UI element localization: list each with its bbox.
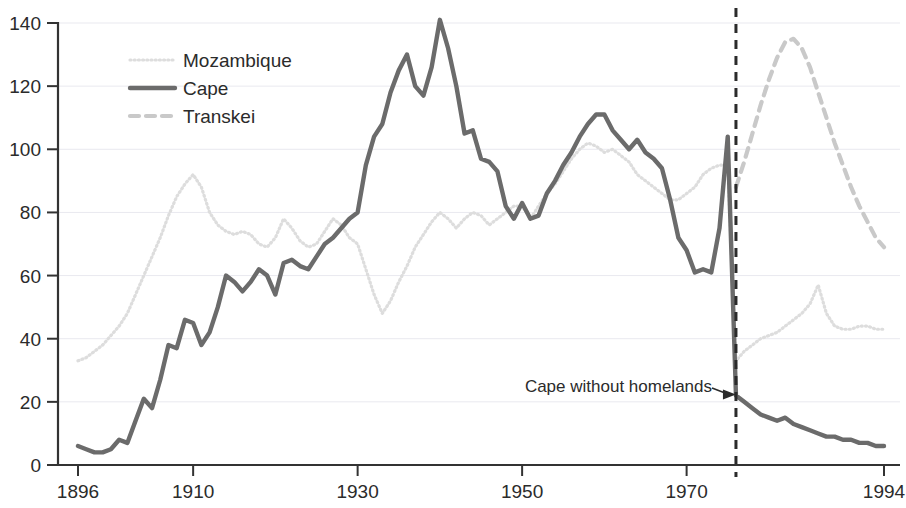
legend-label-mozambique: Mozambique — [183, 50, 292, 71]
series-line-transkei — [736, 39, 884, 247]
legend: MozambiqueCapeTranskei — [130, 50, 292, 127]
y-tick-label-140: 140 — [9, 13, 41, 34]
y-tick-label-80: 80 — [20, 202, 41, 223]
x-tick-label-1970: 1970 — [665, 481, 707, 502]
y-tick-label-40: 40 — [20, 329, 41, 350]
x-tick-label-1950: 1950 — [501, 481, 543, 502]
x-tick-label-1994: 1994 — [863, 481, 906, 502]
legend-label-transkei: Transkei — [183, 106, 255, 127]
x-tick-label-1930: 1930 — [336, 481, 378, 502]
y-tick-label-0: 0 — [30, 455, 41, 476]
annotation-text: Cape without homelands — [525, 377, 712, 396]
x-tick-label-1910: 1910 — [172, 481, 214, 502]
legend-label-cape: Cape — [183, 78, 228, 99]
y-tick-label-100: 100 — [9, 139, 41, 160]
line-chart: 140120100806040200 189619101930195019701… — [0, 0, 906, 508]
y-tick-label-60: 60 — [20, 266, 41, 287]
x-tick-label-1896: 1896 — [57, 481, 99, 502]
y-axis-ticks: 140120100806040200 — [9, 13, 58, 476]
series-line-mozambique — [78, 143, 884, 361]
x-axis-ticks: 189619101930195019701994 — [57, 465, 906, 502]
y-tick-label-120: 120 — [9, 76, 41, 97]
chart-container: 140120100806040200 189619101930195019701… — [0, 0, 906, 508]
y-tick-label-20: 20 — [20, 392, 41, 413]
annotation-cape-without-homelands: Cape without homelands — [525, 377, 736, 400]
